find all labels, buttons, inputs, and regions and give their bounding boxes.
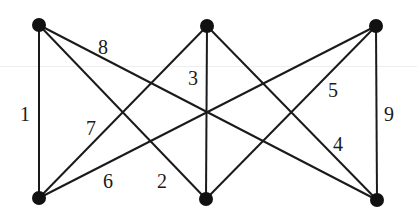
- edge-label: 3: [188, 68, 198, 88]
- edge-label: 1: [20, 104, 30, 124]
- node-BR: [370, 193, 384, 207]
- node-TL: [32, 18, 46, 32]
- edge-label: 6: [103, 171, 113, 191]
- edge-label: 4: [333, 134, 343, 154]
- graph-diagram: [0, 0, 417, 216]
- edges: [39, 25, 377, 200]
- edge-label: 9: [384, 104, 394, 124]
- node-TM: [200, 19, 214, 33]
- node-BM: [199, 192, 213, 206]
- node-TR: [369, 19, 383, 33]
- edge-label: 5: [328, 80, 338, 100]
- edge-TR-BR: [376, 26, 377, 200]
- edge-label: 7: [86, 118, 96, 138]
- edge-label: 2: [157, 171, 167, 191]
- edge-label: 8: [98, 37, 108, 57]
- node-BL: [32, 191, 46, 205]
